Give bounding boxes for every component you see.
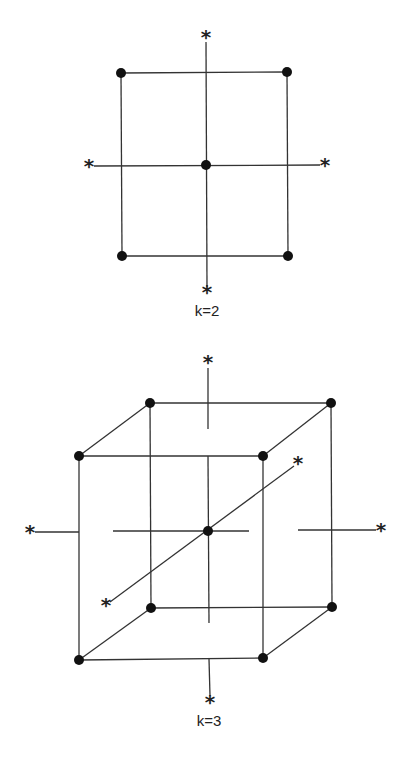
factorial-point-dot-icon [283,251,293,261]
axial-point-star-icon: * [25,520,36,544]
factorial-point-dot-icon [116,68,126,78]
edge-line [79,403,150,456]
axial-point-star-icon: * [101,593,112,617]
k3-label: k=3 [197,712,222,729]
edge-line [79,658,263,660]
edge-line [121,73,122,256]
axial-point-star-icon: * [205,690,216,714]
edge-line [263,403,331,456]
center-point-dot-icon [203,526,213,536]
k2-label: k=2 [195,302,220,319]
axial-point-star-icon: * [320,153,331,177]
edge-line [287,72,288,256]
axial-point-star-icon: * [202,280,213,304]
factorial-point-dot-icon [145,398,155,408]
factorial-point-dot-icon [258,653,268,663]
edge-line [150,403,151,608]
edge-line [79,608,151,660]
edge-line [121,72,287,73]
edge-line [263,607,332,658]
edge-line [208,456,209,623]
factorial-point-dot-icon [74,655,84,665]
panel-k2: **** k=2 [84,25,331,319]
edge-line [151,607,332,608]
factorial-point-dot-icon [327,602,337,612]
k2-factorial-points [116,67,293,261]
factorial-point-dot-icon [146,603,156,613]
axial-point-star-icon: * [203,350,214,374]
edge-line [110,466,294,602]
factorial-point-dot-icon [74,451,84,461]
ccd-diagram: **** k=2 ****** k=3 [0,0,407,760]
factorial-point-dot-icon [282,67,292,77]
factorial-point-dot-icon [326,398,336,408]
axial-point-star-icon: * [201,25,212,49]
axial-point-star-icon: * [376,518,387,542]
edge-line [331,403,332,607]
factorial-point-dot-icon [117,251,127,261]
factorial-point-dot-icon [258,451,268,461]
panel-k3: ****** k=3 [25,350,387,729]
axial-point-star-icon: * [84,154,95,178]
center-point-dot-icon [201,160,211,170]
axial-point-star-icon: * [293,451,304,475]
